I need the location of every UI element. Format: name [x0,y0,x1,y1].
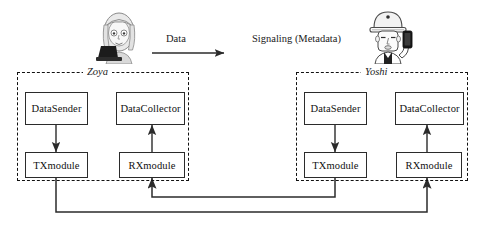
node-yoshi-rx-module[interactable]: RXmodule [396,152,462,178]
person-at-laptop-icon [96,8,142,64]
signaling-flow-label: Signaling (Metadata) [252,33,341,44]
node-zoya-tx-module[interactable]: TXmodule [25,152,88,178]
yoshi-avatar [366,8,414,68]
diagram-canvas: Data Signaling (Metadata) Zoya DataSende… [0,0,487,233]
node-yoshi-data-collector[interactable]: DataCollector [395,92,464,125]
node-zoya-data-sender[interactable]: DataSender [25,92,88,125]
node-zoya-rx-module[interactable]: RXmodule [119,152,185,178]
node-yoshi-data-sender[interactable]: DataSender [304,92,367,125]
node-zoya-data-collector[interactable]: DataCollector [116,92,185,125]
group-label-yoshi: Yoshi [361,66,391,77]
group-label-zoya: Zoya [83,66,112,77]
person-with-hardhat-holding-phone-icon [366,8,414,64]
zoya-tx-to-yoshi-rx-link [56,178,427,212]
node-yoshi-tx-module[interactable]: TXmodule [304,152,367,178]
data-flow-label: Data [166,33,186,44]
zoya-avatar [96,8,142,68]
